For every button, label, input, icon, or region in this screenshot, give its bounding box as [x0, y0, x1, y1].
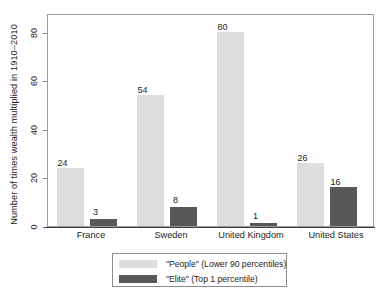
bar-value-united-kingdom-elite: 1: [242, 211, 269, 221]
legend-entry-people: "People" (Lower 90 percentiles): [119, 257, 286, 270]
x-category-label-france: France: [56, 230, 126, 240]
bar-sweden-elite: [170, 207, 197, 226]
legend-entry-elite: "Elite" (Top 1 percentile): [119, 272, 286, 285]
bar-united-states-people: [297, 163, 324, 226]
bar-value-sweden-elite: 8: [162, 195, 189, 205]
y-tick-label-20: 20: [27, 170, 41, 186]
bar-chart-figure: Number of times wealth multiplied in 191…: [0, 0, 387, 292]
bar-sweden-people: [137, 95, 164, 226]
chart-legend: "People" (Lower 90 percentiles) "Elite" …: [112, 253, 287, 287]
bar-united-kingdom-elite: [250, 223, 277, 226]
legend-swatch-people-icon: [119, 260, 157, 268]
bar-value-sweden-people: 54: [129, 85, 156, 95]
bar-value-france-people: 24: [49, 158, 76, 168]
y-tick-label-80: 80: [27, 25, 41, 41]
y-tick-label-60: 60: [27, 73, 41, 89]
bar-value-united-states-elite: 16: [322, 177, 349, 187]
y-tick-label-0: 0: [27, 219, 41, 235]
plot-area: [47, 14, 374, 227]
bar-value-united-states-people: 26: [289, 153, 316, 163]
x-category-label-united-states: United States: [297, 230, 375, 240]
x-axis-line: [44, 227, 375, 228]
bar-united-kingdom-people: [217, 32, 244, 226]
bar-value-united-kingdom-people: 80: [209, 22, 236, 32]
x-category-label-united-kingdom: United Kingdom: [208, 230, 294, 240]
x-category-label-sweden: Sweden: [136, 230, 206, 240]
legend-swatch-elite-icon: [119, 275, 157, 283]
y-tick-label-40: 40: [27, 122, 41, 138]
bar-france-people: [57, 168, 84, 226]
y-axis-title: Number of times wealth multiplied in 191…: [6, 11, 22, 238]
bar-value-france-elite: 3: [82, 207, 109, 217]
legend-label-elite: "Elite" (Top 1 percentile): [166, 274, 258, 284]
legend-label-people: "People" (Lower 90 percentiles): [166, 259, 286, 269]
bar-france-elite: [90, 219, 117, 226]
bar-united-states-elite: [330, 187, 357, 226]
